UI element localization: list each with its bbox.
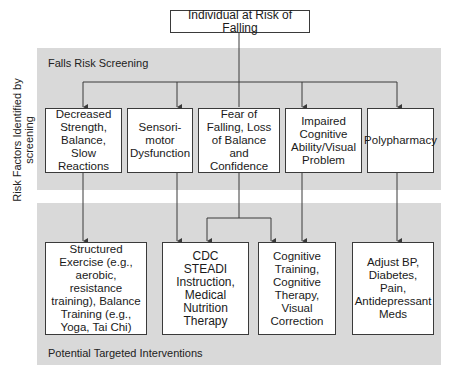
risk-factor-strength-balance: Decreased Strength, Balance, Slow Reacti… [45, 108, 122, 173]
intervention-cdc-steadi: CDC STEADI Instruction, Medical Nutritio… [162, 242, 249, 335]
root-node: Individual at Risk of Falling [170, 10, 310, 33]
risk-factor-cognitive-visual: Impaired Cognitive Ability/Visual Proble… [285, 108, 362, 173]
intervention-structured-exercise: Structured Exercise (e.g., aerobic, resi… [45, 242, 147, 335]
risk-factor-fear-of-falling: Fear of Falling, Loss of Balance and Con… [198, 108, 280, 173]
intervention-adjust-meds: Adjust BP, Diabetes, Pain, Antidepressan… [352, 242, 434, 335]
intervention-cognitive-training: Cognitive Training, Cognitive Therapy, V… [258, 242, 336, 335]
risk-factor-sensorimotor: Sensori-motor Dysfunction [127, 108, 193, 173]
risk-factor-polypharmacy: Polypharmacy [367, 108, 434, 173]
